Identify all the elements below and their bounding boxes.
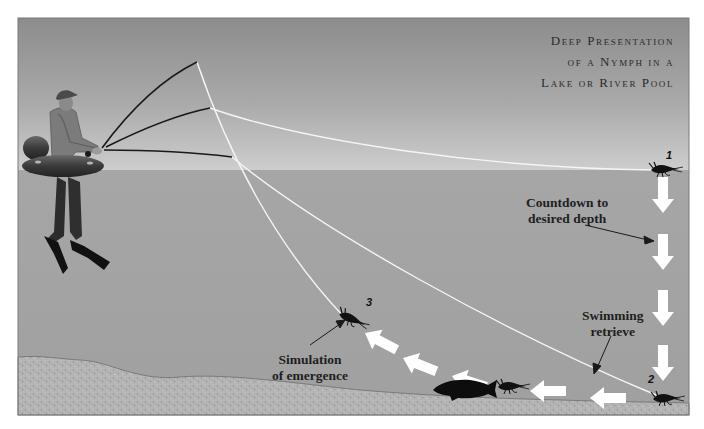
countdown-label-line-1: Countdown to — [526, 195, 608, 211]
countdown-label-line-2: desired depth — [526, 211, 608, 227]
countdown-label: Countdown to desired depth — [526, 195, 608, 227]
tube-highlight — [35, 161, 41, 164]
swimming-label-line-1: Swimming — [582, 308, 644, 324]
swimming-retrieve-label: Swimming retrieve — [582, 308, 644, 340]
angler-right-leg — [68, 177, 82, 240]
swimming-label-line-2: retrieve — [582, 324, 644, 340]
reel — [85, 151, 91, 157]
emergence-label: Simulation of emergence — [272, 352, 348, 384]
title-line-1: Deep Presentation — [541, 30, 674, 51]
emergence-label-line-1: Simulation — [272, 352, 348, 368]
float-tube — [22, 155, 104, 177]
diagram-title: Deep Presentation of a Nymph in a Lake o… — [541, 30, 674, 93]
marker-2: 2 — [648, 373, 654, 385]
angler-hand — [92, 148, 102, 155]
title-line-3: Lake or River Pool — [541, 72, 674, 93]
emergence-label-line-2: of emergence — [272, 368, 348, 384]
title-line-2: of a Nymph in a — [541, 51, 674, 72]
nymph-presentation-diagram: Deep Presentation of a Nymph in a Lake o… — [0, 0, 704, 429]
marker-3: 3 — [366, 296, 372, 308]
tube-highlight — [87, 162, 93, 165]
marker-1: 1 — [666, 149, 672, 161]
